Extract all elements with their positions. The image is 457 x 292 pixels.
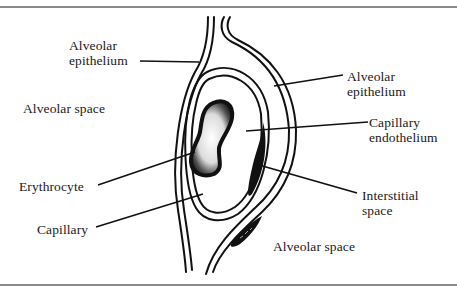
label-capillary-endothelium: Capillary endothelium: [369, 115, 438, 145]
endothelial-nucleus: [248, 122, 265, 196]
label-interstitial-space: Interstitial space: [362, 188, 419, 218]
erythrocyte-shape: [191, 101, 232, 175]
leader-alveolar-epithelium-left: [140, 61, 199, 62]
leader-interstitial-space: [259, 165, 357, 193]
leader-capillary-endothelium: [246, 122, 368, 131]
label-alveolar-space-left: Alveolar space: [23, 101, 105, 116]
label-alveolar-epithelium-left: Alveolar epithelium: [69, 38, 128, 68]
label-erythrocyte: Erythrocyte: [19, 179, 84, 194]
label-alveolar-space-right: Alveolar space: [273, 239, 355, 254]
epithelial-nucleus: [231, 216, 262, 247]
label-alveolar-epithelium-right: Alveolar epithelium: [347, 69, 406, 99]
leader-alveolar-epithelium-right: [274, 75, 343, 86]
label-capillary: Capillary: [37, 222, 88, 237]
leader-capillary: [96, 194, 203, 227]
